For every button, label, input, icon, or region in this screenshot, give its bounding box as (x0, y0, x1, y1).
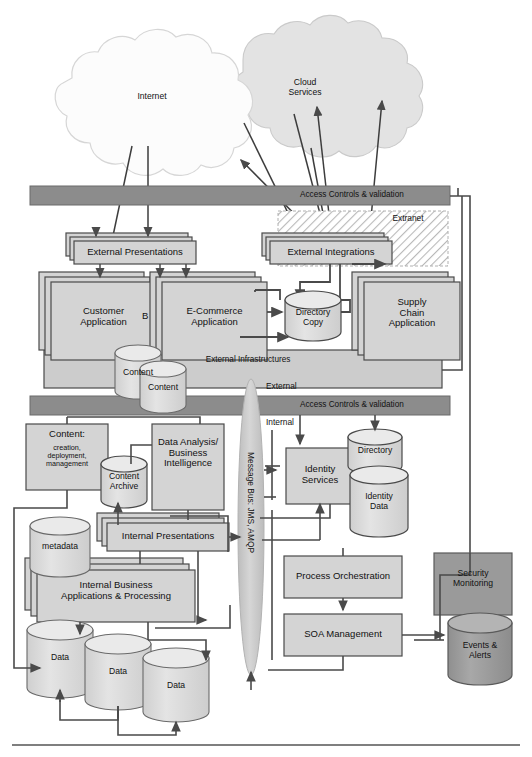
ecommerce-application-box[interactable] (150, 272, 267, 360)
diagram-canvas (0, 0, 532, 757)
cloud-services-shape (236, 15, 422, 157)
supply-chain-application-box[interactable] (352, 272, 460, 360)
security-monitoring-box[interactable] (434, 553, 512, 615)
content-management-box[interactable] (26, 424, 108, 490)
identity-services-box[interactable] (286, 448, 354, 504)
architecture-diagram: Internet Cloud Services Access Controls … (0, 0, 532, 757)
external-presentations-box[interactable] (66, 233, 196, 264)
data-store-1-cylinder[interactable] (27, 620, 93, 698)
content-archive-cylinder[interactable] (101, 456, 147, 508)
internal-presentations-box[interactable] (97, 513, 229, 551)
data-analysis-bi-box[interactable] (152, 424, 224, 510)
soa-management-box[interactable] (284, 614, 402, 656)
events-alerts-cylinder[interactable] (448, 613, 512, 685)
message-bus-label: Message Bus: JMS, AMQP (246, 452, 256, 553)
data-store-2-cylinder[interactable] (85, 634, 151, 710)
directory-copy-cylinder[interactable] (285, 291, 341, 341)
internet-cloud-shape (55, 29, 252, 175)
right-routing-lines (450, 188, 470, 575)
external-access-bar (30, 186, 450, 205)
data-store-3-cylinder[interactable] (143, 648, 209, 722)
external-integrations-box[interactable] (262, 233, 392, 264)
process-orchestration-box[interactable] (284, 556, 402, 598)
identity-data-cylinder[interactable] (350, 466, 408, 537)
internal-access-bar (30, 396, 450, 415)
metadata-store-cylinder[interactable] (30, 517, 90, 577)
content-store-2-cylinder[interactable] (140, 361, 186, 413)
